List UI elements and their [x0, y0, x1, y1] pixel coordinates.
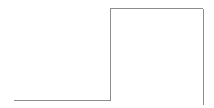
canvas-background [0, 0, 214, 108]
drawing-canvas [0, 0, 214, 108]
step-figure [0, 0, 214, 108]
